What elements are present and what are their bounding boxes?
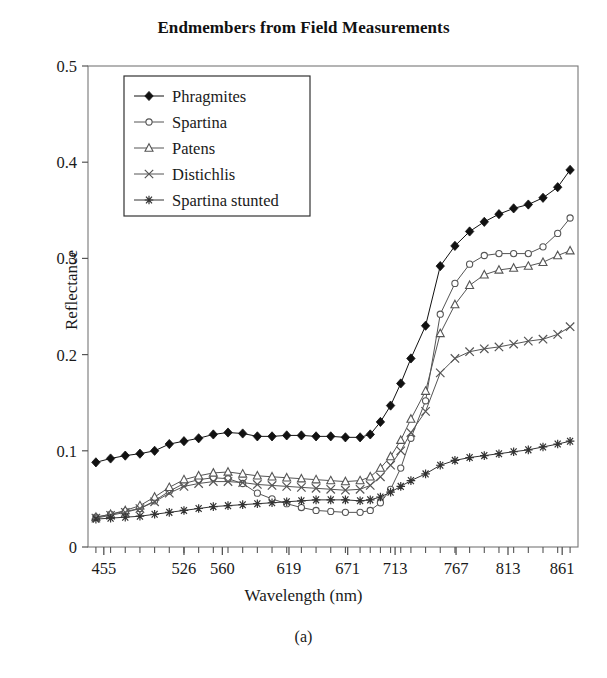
- subfigure-label: (a): [0, 628, 607, 646]
- y-tick-label-0: 0: [69, 538, 77, 557]
- marker-cross-x: [386, 461, 394, 469]
- marker-asterisk: [451, 456, 460, 465]
- x-tick-label-455: 455: [91, 559, 116, 578]
- series-line: [96, 251, 570, 517]
- marker-asterisk: [194, 504, 203, 513]
- marker-cross-x: [509, 340, 517, 348]
- marker-open-circle: [422, 398, 428, 404]
- marker-open-triangle: [422, 387, 430, 395]
- x-tick-label-619: 619: [277, 559, 302, 578]
- x-tick-label-526: 526: [172, 559, 197, 578]
- marker-asterisk: [566, 437, 575, 446]
- marker-filled-diamond: [136, 449, 144, 458]
- marker-filled-diamond: [268, 432, 276, 441]
- x-tick-label-713: 713: [383, 559, 408, 578]
- y-tick-label-0.4: 0.4: [56, 153, 77, 172]
- marker-asterisk: [209, 502, 218, 511]
- marker-asterisk: [376, 493, 385, 502]
- x-axis-title: Wavelength (nm): [0, 586, 607, 606]
- marker-open-circle: [555, 230, 561, 236]
- marker-asterisk: [524, 446, 533, 455]
- marker-filled-diamond: [495, 210, 503, 219]
- marker-open-circle: [467, 261, 473, 267]
- y-tick-label-0.5: 0.5: [56, 57, 77, 76]
- marker-filled-diamond: [356, 433, 364, 442]
- marker-filled-diamond: [312, 432, 320, 441]
- marker-open-circle: [146, 119, 152, 125]
- marker-asterisk: [224, 501, 233, 510]
- marker-asterisk: [92, 515, 101, 524]
- marker-open-triangle: [566, 246, 574, 254]
- marker-cross-x: [451, 354, 459, 362]
- series-patens: [92, 246, 574, 520]
- marker-asterisk: [356, 497, 365, 506]
- marker-filled-diamond: [150, 446, 158, 455]
- marker-filled-diamond: [121, 451, 129, 460]
- marker-open-triangle: [165, 483, 173, 491]
- marker-open-circle: [481, 252, 487, 258]
- marker-filled-diamond: [553, 183, 561, 192]
- marker-open-triangle: [224, 468, 232, 476]
- x-tick-label-861: 861: [550, 559, 575, 578]
- marker-asterisk: [165, 508, 174, 517]
- marker-asterisk: [341, 496, 350, 505]
- marker-open-circle: [254, 490, 260, 496]
- marker-filled-diamond: [283, 431, 291, 440]
- x-tick-label-767: 767: [444, 559, 469, 578]
- legend-label: Phragmites: [172, 87, 246, 106]
- marker-filled-diamond: [180, 437, 188, 446]
- marker-asterisk: [121, 513, 130, 522]
- marker-filled-diamond: [509, 204, 517, 213]
- marker-asterisk: [436, 461, 445, 470]
- series-line: [96, 218, 570, 517]
- marker-asterisk: [465, 453, 474, 462]
- marker-open-triangle: [366, 472, 374, 480]
- legend: PhragmitesSpartinaPatensDistichlisSparti…: [124, 76, 310, 216]
- marker-filled-diamond: [209, 430, 217, 439]
- marker-asterisk: [326, 496, 335, 505]
- marker-cross-x: [436, 369, 444, 377]
- marker-asterisk: [386, 488, 395, 497]
- marker-filled-diamond: [106, 454, 114, 463]
- marker-asterisk: [480, 451, 489, 460]
- marker-filled-diamond: [480, 217, 488, 226]
- marker-filled-diamond: [341, 433, 349, 442]
- marker-open-circle: [298, 504, 304, 510]
- y-axis-title: Reflectance: [62, 210, 82, 370]
- marker-filled-diamond: [253, 432, 261, 441]
- marker-filled-diamond: [386, 401, 394, 410]
- marker-open-circle: [496, 250, 502, 256]
- marker-asterisk: [238, 500, 247, 509]
- marker-filled-diamond: [165, 439, 173, 448]
- marker-open-circle: [540, 244, 546, 250]
- marker-asterisk: [106, 514, 115, 523]
- marker-filled-diamond: [407, 354, 415, 363]
- series-distichlis: [92, 323, 575, 523]
- chart-plot: 00.10.20.30.40.5455526560619671713767813…: [0, 0, 607, 678]
- marker-open-circle: [398, 465, 404, 471]
- legend-label: Spartina: [172, 113, 228, 132]
- x-tick-label-560: 560: [210, 559, 235, 578]
- marker-open-triangle: [554, 251, 562, 258]
- marker-filled-diamond: [92, 458, 100, 467]
- marker-open-circle: [437, 311, 443, 317]
- marker-asterisk: [297, 497, 306, 506]
- marker-filled-diamond: [397, 379, 405, 388]
- marker-filled-diamond: [327, 432, 335, 441]
- figure-container: Endmembers from Field Measurements 00.10…: [0, 0, 607, 678]
- marker-filled-diamond: [238, 429, 246, 438]
- marker-asterisk: [421, 470, 430, 479]
- marker-open-circle: [567, 215, 573, 221]
- marker-asterisk: [145, 196, 154, 205]
- marker-asterisk: [539, 443, 548, 452]
- marker-cross-x: [421, 407, 429, 415]
- marker-open-triangle: [539, 258, 547, 266]
- marker-asterisk: [180, 506, 189, 515]
- marker-cross-x: [465, 348, 473, 356]
- marker-open-triangle: [466, 281, 474, 289]
- legend-label: Spartina stunted: [172, 191, 280, 210]
- marker-asterisk: [396, 482, 405, 491]
- marker-asterisk: [136, 512, 145, 521]
- marker-asterisk: [407, 476, 416, 485]
- marker-cross-x: [376, 473, 384, 481]
